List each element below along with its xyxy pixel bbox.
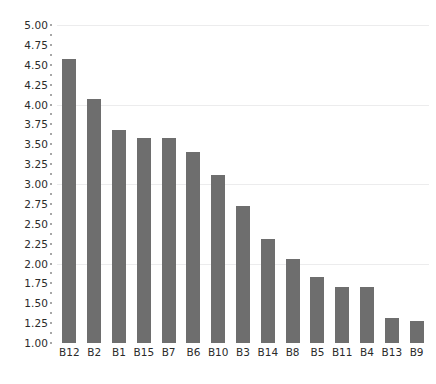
bar bbox=[310, 277, 324, 343]
y-axis-minor-tick-mark bbox=[50, 94, 52, 96]
bar bbox=[112, 130, 126, 343]
footer-caption bbox=[6, 368, 430, 380]
bar bbox=[186, 152, 200, 343]
bar-chart: 1.001.251.501.752.002.252.502.753.003.25… bbox=[0, 0, 436, 384]
y-axis-tick-mark bbox=[50, 302, 52, 304]
y-axis-tick-mark bbox=[50, 84, 52, 86]
bar bbox=[286, 259, 300, 343]
y-axis-tick-label: 1.50 bbox=[4, 298, 48, 309]
y-axis-minor-tick-mark bbox=[50, 332, 52, 334]
y-axis-tick-label: 4.50 bbox=[4, 60, 48, 71]
bars-layer bbox=[57, 0, 429, 343]
y-axis-tick-label: 1.75 bbox=[4, 278, 48, 289]
y-axis-tick-mark bbox=[50, 183, 52, 185]
bar bbox=[335, 287, 349, 343]
y-axis-tick-mark bbox=[50, 64, 52, 66]
y-axis-minor-tick-mark bbox=[50, 153, 52, 155]
y-axis-tick-mark bbox=[50, 243, 52, 245]
y-axis-tick-mark bbox=[50, 322, 52, 324]
y-axis-tick-label: 3.25 bbox=[4, 159, 48, 170]
y-axis-minor-tick-mark bbox=[50, 253, 52, 255]
y-axis-tick-mark bbox=[50, 44, 52, 46]
y-axis-tick-label: 2.25 bbox=[4, 239, 48, 250]
y-axis-minor-tick-mark bbox=[50, 34, 52, 36]
y-axis-tick-label: 4.25 bbox=[4, 80, 48, 91]
bar bbox=[162, 138, 176, 343]
y-axis-tick-mark bbox=[50, 163, 52, 165]
y-axis-tick-mark bbox=[50, 24, 52, 26]
x-axis: B12B2B1B15B7B6B10B3B14B8B5B11B4B13B9 bbox=[57, 346, 429, 362]
y-axis-minor-tick-mark bbox=[50, 213, 52, 215]
y-axis-tick-mark bbox=[50, 263, 52, 265]
y-axis-tick-label: 1.25 bbox=[4, 318, 48, 329]
bar bbox=[360, 287, 374, 343]
bar bbox=[410, 321, 424, 343]
y-axis-minor-tick-mark bbox=[50, 54, 52, 56]
y-axis-tick-mark bbox=[50, 282, 52, 284]
y-axis-minor-tick-mark bbox=[50, 133, 52, 135]
bar bbox=[87, 99, 101, 343]
bar bbox=[236, 206, 250, 343]
y-axis-minor-tick-mark bbox=[50, 312, 52, 314]
bar bbox=[211, 175, 225, 343]
y-axis-tick-label: 3.00 bbox=[4, 179, 48, 190]
bar bbox=[385, 318, 399, 343]
y-axis-tick-label: 3.75 bbox=[4, 119, 48, 130]
y-axis-tick-label: 4.75 bbox=[4, 40, 48, 51]
y-axis-tick-mark bbox=[50, 104, 52, 106]
bar bbox=[137, 138, 151, 343]
y-axis-tick-label: 2.75 bbox=[4, 199, 48, 210]
y-axis-minor-tick-mark bbox=[50, 272, 52, 274]
y-axis-minor-tick-mark bbox=[50, 173, 52, 175]
y-axis-minor-tick-mark bbox=[50, 292, 52, 294]
y-axis-minor-tick-mark bbox=[50, 113, 52, 115]
x-axis-tick-label: B9 bbox=[400, 346, 434, 359]
y-axis-tick-label: 4.00 bbox=[4, 100, 48, 111]
y-axis-tick-mark bbox=[50, 203, 52, 205]
y-axis-tick-mark bbox=[50, 342, 52, 344]
y-axis-tick-mark bbox=[50, 123, 52, 125]
y-axis-minor-tick-mark bbox=[50, 233, 52, 235]
y-axis-tick-label: 3.50 bbox=[4, 139, 48, 150]
y-axis-minor-tick-mark bbox=[50, 74, 52, 76]
y-axis-tick-mark bbox=[50, 143, 52, 145]
y-axis-tick-mark bbox=[50, 223, 52, 225]
y-axis-tick-label: 2.00 bbox=[4, 259, 48, 270]
y-axis-tick-label: 1.00 bbox=[4, 338, 48, 349]
bar bbox=[62, 59, 76, 343]
y-axis-tick-label: 2.50 bbox=[4, 219, 48, 230]
y-axis-tick-label: 5.00 bbox=[4, 20, 48, 31]
y-axis: 1.001.251.501.752.002.252.502.753.003.25… bbox=[0, 0, 48, 384]
y-axis-minor-tick-mark bbox=[50, 193, 52, 195]
bar bbox=[261, 239, 275, 343]
